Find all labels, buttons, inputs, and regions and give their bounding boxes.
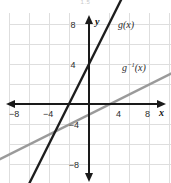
graph-svg: −8 −4 4 8 8 4 −4 −8 y x g(x) g−1(x) xyxy=(0,0,171,183)
curve-label-g-inverse-arg: (x) xyxy=(135,62,147,74)
arrow-down-icon xyxy=(85,173,93,182)
axes xyxy=(6,15,166,182)
curve-label-g-inverse-exponent: −1 xyxy=(127,61,135,68)
coordinate-plane-figure: 1.5 xyxy=(0,0,171,183)
y-axis-label: y xyxy=(94,16,100,27)
x-axis-label: x xyxy=(158,107,164,118)
x-tick-label: 8 xyxy=(145,109,150,119)
x-tick-label: −8 xyxy=(9,109,19,119)
y-tick-label: 4 xyxy=(70,60,75,70)
y-tick-label: −8 xyxy=(69,160,79,170)
arrow-left-icon xyxy=(6,100,15,108)
y-tick-label: −4 xyxy=(69,120,79,130)
curve-label-g-inverse: g−1(x) xyxy=(122,61,146,74)
arrow-up-icon xyxy=(85,15,93,24)
x-tick-label: −4 xyxy=(43,109,53,119)
x-tick-label: 4 xyxy=(116,109,121,119)
y-tick-label: 8 xyxy=(70,20,75,30)
top-caption: 1.5 xyxy=(0,0,171,5)
curve-label-g: g(x) xyxy=(118,19,135,31)
